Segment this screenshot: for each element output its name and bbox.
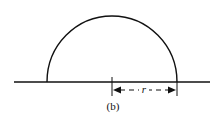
diagram-canvas: r (b)	[0, 0, 219, 118]
arrowhead-right-icon	[168, 87, 176, 94]
figure-caption: (b)	[107, 100, 120, 113]
radius-label: r	[142, 83, 147, 95]
semicircle-arc	[47, 16, 177, 82]
arrowhead-left-icon	[113, 87, 121, 94]
